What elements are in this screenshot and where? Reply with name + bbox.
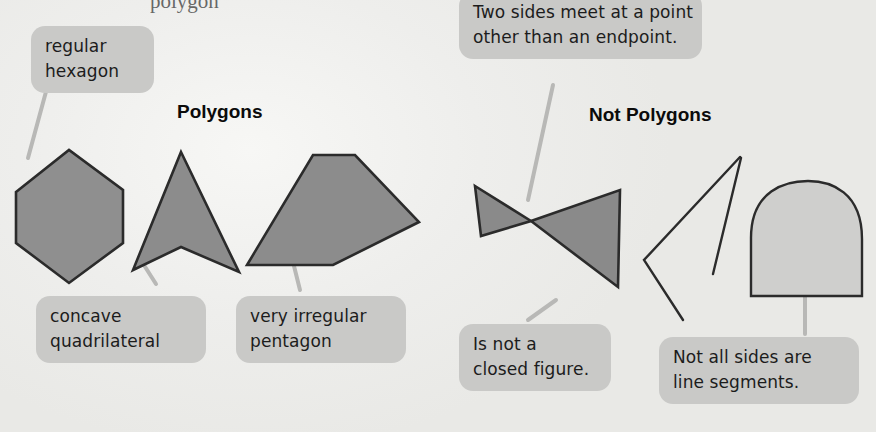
shape-bowtie [475, 186, 620, 287]
callout-line: pentagon [250, 329, 392, 354]
callout-line: Two sides meet at a point [473, 0, 688, 25]
leader-line-not-closed [528, 300, 556, 320]
callout-line: quadrilateral [50, 329, 192, 354]
callout-line: other than an endpoint. [473, 25, 688, 50]
callout-line: Is not a [473, 332, 597, 357]
leader-line-two-sides-meet [528, 85, 553, 200]
shape-regular-hexagon [16, 150, 123, 283]
callout-regular-hexagon: regular hexagon [31, 26, 154, 93]
callout-line: closed figure. [473, 357, 597, 382]
callout-line: regular [45, 34, 140, 59]
callout-line: hexagon [45, 59, 140, 84]
callout-line: line segments. [673, 370, 845, 395]
callout-concave-quadrilateral: concave quadrilateral [36, 296, 206, 363]
callout-not-closed-figure: Is not a closed figure. [459, 324, 611, 391]
callout-line: concave [50, 304, 192, 329]
heading-not-polygons: Not Polygons [589, 104, 711, 126]
shape-irregular-pentagon [247, 155, 419, 265]
callout-very-irregular-pentagon: very irregular pentagon [236, 296, 406, 363]
leader-line-hexagon [28, 88, 47, 158]
shape-dome [751, 181, 862, 296]
callout-not-line-segments: Not all sides are line segments. [659, 337, 859, 404]
shape-open-figure [644, 157, 741, 320]
open-figure-bent-side [644, 157, 740, 320]
callout-line: Not all sides are [673, 345, 845, 370]
diagram-canvas: polygon Polygons Not Po [0, 0, 876, 432]
leader-line-pentagon [294, 266, 300, 290]
shape-concave-quadrilateral [133, 152, 239, 272]
heading-polygons: Polygons [177, 101, 263, 123]
callout-line: very irregular [250, 304, 392, 329]
open-figure-free-side [713, 158, 741, 274]
callout-two-sides-meet: Two sides meet at a point other than an … [459, 0, 702, 59]
